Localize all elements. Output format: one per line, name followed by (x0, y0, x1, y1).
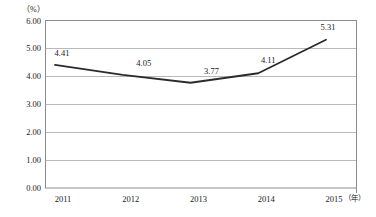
plot-area (0, 0, 376, 217)
data-point-label: 3.77 (204, 67, 219, 76)
x-axis-tick-label: 2011 (55, 195, 72, 204)
gridlines (46, 49, 357, 161)
x-axis-tick-label: 2015 (326, 195, 343, 204)
data-point-label: 4.11 (261, 56, 276, 65)
x-axis-unit-label: （年） (344, 195, 365, 203)
data-point-label: 5.31 (321, 23, 336, 32)
data-point-label: 4.05 (136, 59, 151, 68)
x-axis-tick-label: 2012 (122, 195, 139, 204)
x-axis-tick-label: 2013 (190, 195, 207, 204)
line-chart: （%） 6.005.004.003.002.001.000.00 2011201… (0, 0, 376, 217)
data-point-label: 4.41 (55, 49, 70, 58)
x-axis-tick-label: 2014 (258, 195, 275, 204)
